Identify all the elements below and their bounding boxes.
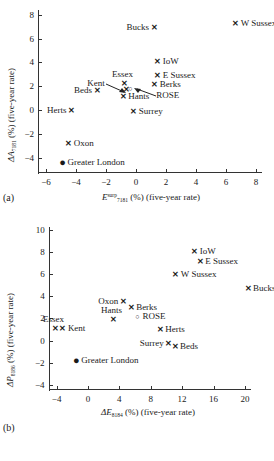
- data-point-label: W Sussex: [181, 270, 217, 279]
- y-axis-tick-label: 10: [23, 226, 45, 235]
- y-axis-tick-label: 2: [23, 314, 45, 323]
- x-axis-tick: [57, 386, 58, 389]
- marker-cross-icon: ✕: [52, 323, 59, 332]
- y-axis-tick: [50, 252, 53, 253]
- x-axis-tick: [196, 169, 197, 172]
- data-point-label: Herts: [165, 325, 185, 334]
- y-axis-tick: [39, 158, 42, 159]
- y-axis-tick: [50, 274, 53, 275]
- plot-area-a: −4−202468−6−4−202468Esurp7181 (%) (five-…: [37, 10, 265, 172]
- y-axis-tick-label: 6: [23, 270, 45, 279]
- x-axis-tick: [136, 169, 137, 172]
- data-point-label: Surrey: [139, 107, 163, 116]
- data-point-label: E Sussex: [205, 257, 238, 266]
- marker-cross-icon: ✕: [172, 342, 179, 351]
- y-axis-tick-label: −2: [23, 359, 45, 368]
- x-axis-tick-label: 8: [136, 395, 166, 404]
- marker-cross-icon: ✕: [191, 247, 198, 256]
- y-axis-tick: [50, 341, 53, 342]
- marker-cross-icon: ✕: [245, 283, 252, 292]
- x-axis-tick-label: 4: [181, 178, 211, 187]
- data-point-label: Essex: [43, 314, 64, 323]
- x-axis-tick-label: 8: [241, 178, 271, 187]
- data-point-label: Oxon: [74, 139, 94, 148]
- y-axis-tick: [39, 62, 42, 63]
- y-axis-line: [38, 10, 39, 174]
- marker-cross-icon: ✕: [172, 270, 179, 279]
- x-axis-tick-label: 12: [167, 395, 197, 404]
- marker-cross-icon: ✕: [232, 19, 239, 28]
- data-point-label: ROSE: [142, 312, 165, 321]
- data-point-label: Herts: [47, 106, 67, 115]
- data-point-label: Surrey: [140, 338, 164, 347]
- data-point-label: Greater London: [81, 356, 138, 365]
- x-axis-tick: [119, 386, 120, 389]
- marker-cross-icon: ✕: [130, 107, 137, 116]
- y-axis-tick: [39, 86, 42, 87]
- x-axis-tick: [226, 169, 227, 172]
- x-axis-tick-label: −4: [42, 395, 72, 404]
- y-axis-tick-label: 8: [12, 11, 34, 20]
- data-point-label: Greater London: [68, 158, 125, 167]
- marker-cross-icon: ✕: [120, 92, 127, 101]
- panel-tag: (b): [3, 423, 15, 433]
- data-point-label: IoW: [163, 57, 179, 66]
- y-axis-tick: [50, 230, 53, 231]
- x-axis-tick-label: −6: [31, 178, 61, 187]
- scatter-panel-a: −4−202468−6−4−202468Esurp7181 (%) (five-…: [0, 0, 274, 215]
- marker-cross-icon: ✕: [59, 323, 66, 332]
- data-point-label: W Sussex: [241, 19, 274, 28]
- marker-cross-icon: ✕: [128, 302, 135, 311]
- x-axis-tick-label: 0: [121, 178, 151, 187]
- scatter-panel-b: −4−20246810−4048121620ΔE8184 (%) (five-y…: [0, 215, 274, 461]
- x-axis-tick: [46, 169, 47, 172]
- marker-cross-icon: ✕: [110, 315, 117, 324]
- marker-cross-icon: ✕: [157, 325, 164, 334]
- x-axis-line: [49, 389, 251, 390]
- data-point-label: ROSE: [156, 90, 179, 99]
- x-axis-tick-label: 16: [199, 395, 229, 404]
- x-axis-tick: [214, 386, 215, 389]
- panel-tag: (a): [3, 193, 14, 203]
- x-axis-tick-label: 0: [73, 395, 103, 404]
- marker-cross-icon: ✕: [94, 86, 101, 95]
- marker-cross-icon: ✕: [68, 106, 75, 115]
- y-axis-tick: [50, 296, 53, 297]
- y-axis-tick-label: 0: [23, 337, 45, 346]
- marker-dot-icon: ●: [73, 356, 80, 365]
- x-axis-tick: [76, 169, 77, 172]
- data-point-label: Beds: [74, 86, 92, 95]
- y-axis-tick-label: 8: [23, 248, 45, 257]
- x-axis-tick: [151, 386, 152, 389]
- x-axis-tick: [256, 169, 257, 172]
- data-point-label: Bucks: [127, 22, 150, 31]
- x-axis-title: ΔE8184 (%) (five-year rate): [37, 407, 259, 420]
- marker-cross-icon: ✕: [154, 57, 161, 66]
- data-point-label: IoW: [200, 247, 216, 256]
- data-point-label: Berks: [160, 80, 181, 89]
- y-axis-tick-label: 6: [12, 35, 34, 44]
- y-axis-title: ΔA7181 (%) (five-year rate): [6, 68, 19, 162]
- x-axis-tick: [182, 386, 183, 389]
- y-axis-tick: [39, 15, 42, 16]
- x-axis-tick-label: 20: [230, 395, 260, 404]
- data-point-label: Hants: [128, 92, 149, 101]
- y-axis-tick: [39, 134, 42, 135]
- y-axis-tick-label: 4: [23, 292, 45, 301]
- y-axis-tick: [50, 385, 53, 386]
- y-axis-tick: [50, 363, 53, 364]
- marker-cross-icon: ✕: [65, 139, 72, 148]
- data-point-label: Essex: [112, 69, 133, 78]
- marker-cross-icon: ✕: [151, 22, 158, 31]
- x-axis-title: Esurp7181 (%) (five-year rate): [37, 190, 265, 205]
- x-axis-tick: [166, 169, 167, 172]
- y-axis-title: ΔP8186 (%) (five-year rate): [5, 293, 18, 387]
- x-axis-tick-label: −4: [61, 178, 91, 187]
- x-axis-tick-label: 4: [104, 395, 134, 404]
- data-point-label: Bucks: [253, 283, 274, 292]
- y-axis-tick-label: 4: [12, 58, 34, 67]
- marker-dot-icon: ●: [59, 158, 66, 167]
- x-axis-tick: [106, 169, 107, 172]
- x-axis-tick: [88, 386, 89, 389]
- data-point-label: Kent: [68, 323, 86, 332]
